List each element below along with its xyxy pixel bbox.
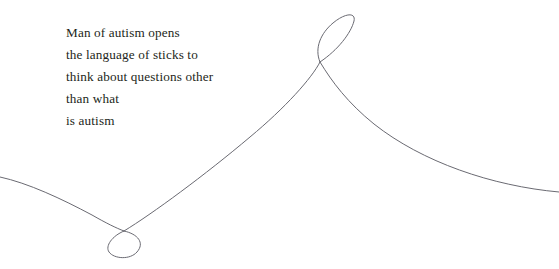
artboard: Man of autism opens the language of stic… [0,0,559,269]
curve-right-tail [320,62,559,192]
curve-lower-loop [108,231,141,258]
poem-line-3: think about questions other [66,66,306,88]
curve-left-tail [0,177,124,231]
poem-line-4: than what [66,88,306,110]
poem-line-2: the language of sticks to [66,44,306,66]
poem-line-5: is autism [66,110,306,132]
curve-upper-loop [318,15,354,62]
poem-line-1: Man of autism opens [66,22,306,44]
poem-text: Man of autism opens the language of stic… [66,22,306,132]
